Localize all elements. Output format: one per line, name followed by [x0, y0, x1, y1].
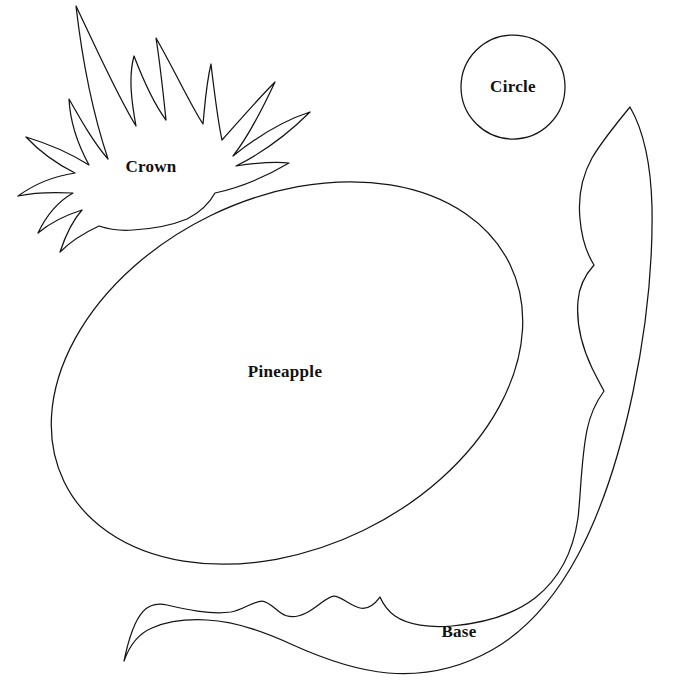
piece-circle[interactable]: Circle — [461, 35, 565, 139]
piece-pineapple[interactable]: Pineapple — [0, 107, 587, 639]
base-label: Base — [441, 622, 476, 641]
pattern-sheet: Crown Circle Pineapple Base — [0, 0, 682, 686]
crown-outline[interactable] — [18, 6, 310, 252]
circle-label: Circle — [490, 77, 536, 96]
pineapple-label: Pineapple — [248, 362, 323, 381]
pattern-drawing-canvas: Crown Circle Pineapple Base — [0, 0, 682, 686]
crown-label: Crown — [125, 157, 176, 176]
piece-base[interactable]: Base — [124, 107, 652, 674]
base-outline[interactable] — [124, 107, 652, 674]
piece-crown[interactable]: Crown — [18, 6, 310, 252]
